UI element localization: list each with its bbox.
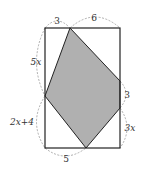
- label-left-lower: 2x+4: [9, 117, 34, 127]
- label-top-right: 6: [91, 13, 97, 23]
- geometry-figure: 3 6 5x 2x+4 3 3x 5: [0, 0, 141, 171]
- label-left-upper: 5x: [31, 57, 42, 67]
- shaded-pentagon: [45, 28, 120, 148]
- arc-left-lower: [37, 96, 46, 148]
- label-bottom-left: 5: [63, 154, 69, 164]
- label-top-left: 3: [54, 16, 60, 26]
- label-right-lower: 3x: [125, 123, 136, 133]
- label-right-middle: 3: [124, 90, 130, 100]
